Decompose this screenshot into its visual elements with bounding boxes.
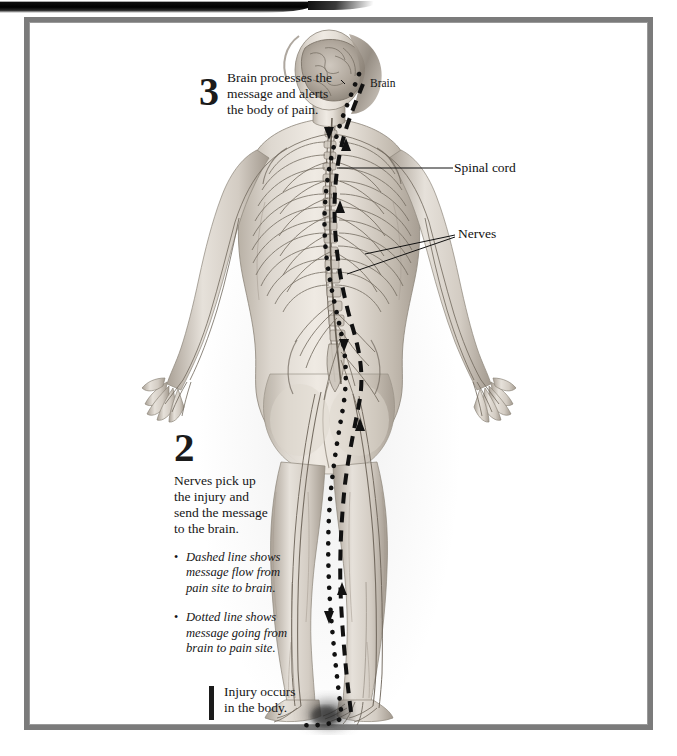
label-brain: Brain xyxy=(370,77,396,89)
step-2-line-2: the injury and xyxy=(174,489,324,505)
step-2-line-1: Nerves pick up xyxy=(174,473,324,489)
legend-dashed-line-1: Dashed line shows xyxy=(186,550,324,566)
anatomical-figure xyxy=(29,22,658,735)
step-2-line-4: to the brain. xyxy=(174,521,324,537)
step-1-text: Injury occurs in the body. xyxy=(224,684,359,716)
step-2-block: 2 Nerves pick up the injury and send the… xyxy=(174,427,324,670)
bullet-icon: • xyxy=(174,550,178,565)
diagram-frame: 3 Brain processes the message and alerts… xyxy=(24,17,653,730)
clipped-caption xyxy=(415,747,675,756)
legend-list: • Dashed line shows message flow from pa… xyxy=(174,550,324,657)
step-3-text: Brain processes the message and alerts t… xyxy=(227,70,374,117)
step-3-line-3: the body of pain. xyxy=(227,102,374,118)
label-spinal-cord: Spinal cord xyxy=(454,160,516,176)
legend-dotted-line-3: brain to pain site. xyxy=(186,641,324,657)
step-1-line-1: Injury occurs xyxy=(224,684,359,700)
page-edge-artifact xyxy=(0,0,320,13)
step-3-line-1: Brain processes the xyxy=(227,70,374,86)
step-2-text: Nerves pick up the injury and send the m… xyxy=(174,473,324,537)
step-3-block: 3 Brain processes the message and alerts… xyxy=(199,70,374,117)
legend-dashed-line-2: message flow from xyxy=(186,565,324,581)
legend-dashed-line-3: pain site to brain. xyxy=(186,581,324,597)
label-nerves: Nerves xyxy=(458,226,496,242)
legend-item-dotted: • Dotted line shows message going from b… xyxy=(174,610,324,657)
legend-dotted-line-2: message going from xyxy=(186,626,324,642)
legend-dotted-line-1: Dotted line shows xyxy=(186,610,324,626)
step-3-number: 3 xyxy=(199,72,219,112)
legend-item-dashed: • Dashed line shows message flow from pa… xyxy=(174,550,324,597)
bullet-icon: • xyxy=(174,610,178,625)
step-1-line-2: in the body. xyxy=(224,700,359,716)
step-2-line-3: send the message xyxy=(174,505,324,521)
step-2-number: 2 xyxy=(174,427,324,468)
step-1-block: Injury occurs in the body. xyxy=(209,684,359,716)
step-1-number-bar xyxy=(209,686,214,720)
step-3-line-2: message and alerts xyxy=(227,86,374,102)
